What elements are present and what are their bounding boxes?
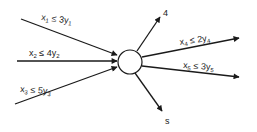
output-label-s: s bbox=[165, 116, 170, 126]
output-label-4: 4 bbox=[163, 8, 168, 18]
input-label-2: x2 ≤ 4y2 bbox=[29, 48, 60, 59]
flow-node bbox=[118, 50, 142, 74]
flow-node-diagram: x1 ≤ 3y1 x2 ≤ 4y2 x3 ≤ 5y3 4 x4 ≤ 2y4 x5… bbox=[0, 0, 257, 132]
input-label-1: x1 ≤ 3y1 bbox=[41, 12, 73, 27]
output-label-x5: x5 ≤ 3y5 bbox=[183, 60, 215, 73]
output-arc-s bbox=[135, 73, 162, 111]
input-label-3: x3 ≤ 5y3 bbox=[20, 84, 52, 97]
output-arc-4 bbox=[137, 17, 160, 51]
output-label-x4: x4 ≤ 2y4 bbox=[179, 33, 212, 48]
